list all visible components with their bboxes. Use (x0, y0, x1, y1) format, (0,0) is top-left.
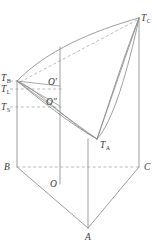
ray-TB-TA (17, 81, 97, 139)
label-TB: TB (1, 73, 11, 84)
label-A: A (84, 232, 91, 242)
label-O: O (50, 179, 57, 189)
chord-TA-TC (97, 18, 139, 139)
ternary-phase-diagram: TC TB TL TS TA O' O″ O B C A (0, 0, 157, 246)
label-B: B (4, 162, 10, 172)
label-O-prime: O' (48, 77, 58, 87)
label-TL: TL (1, 84, 11, 95)
liquidus-surface-curves (17, 18, 139, 139)
edge-A-C (88, 167, 139, 228)
rays-from-TB (17, 81, 97, 139)
label-TS: TS (1, 102, 10, 113)
label-TA: TA (100, 140, 111, 151)
diagram-canvas: TC TB TL TS TA O' O″ O B C A (0, 0, 157, 246)
prism-solid-edges (17, 18, 139, 228)
label-TC: TC (141, 13, 151, 24)
label-O-double-prime: O″ (46, 97, 58, 107)
edge-B-A (17, 167, 88, 228)
label-C: C (144, 162, 151, 172)
